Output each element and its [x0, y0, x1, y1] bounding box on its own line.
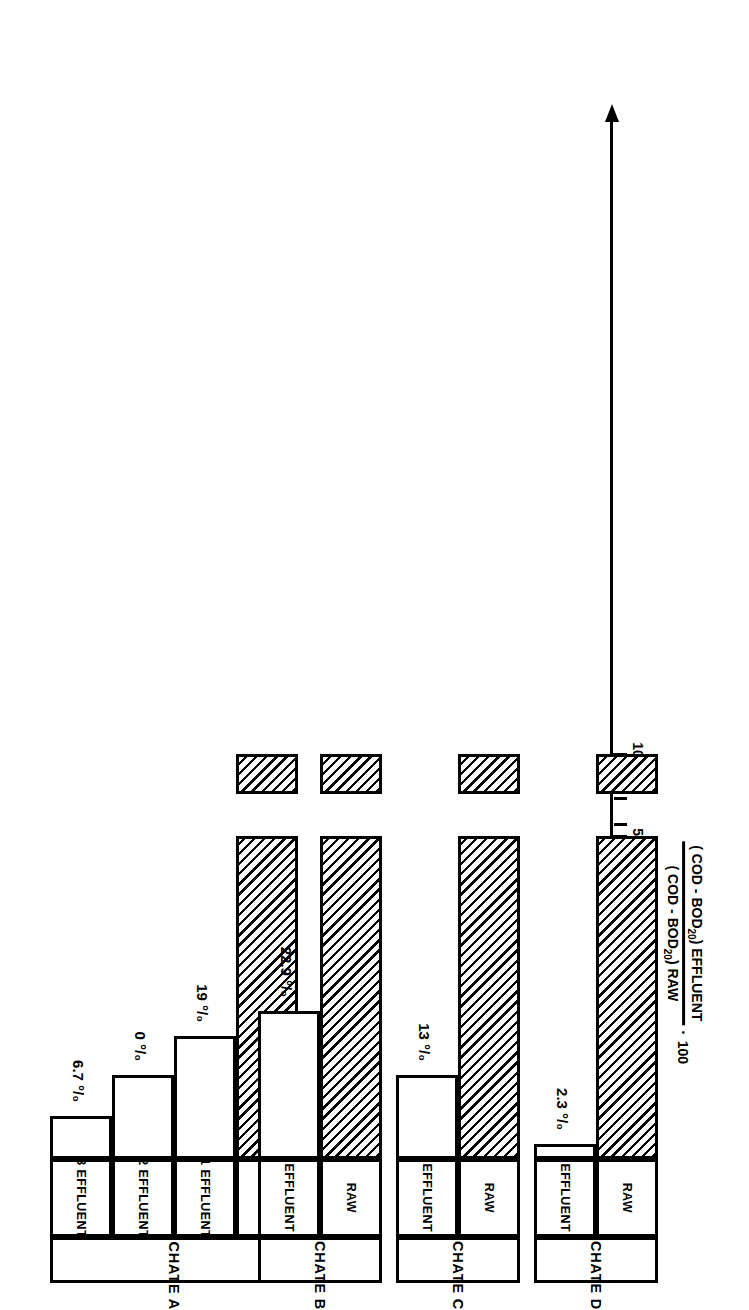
bar-raw: [458, 837, 520, 1160]
series-label-box: 2 EFFLUENT: [112, 1159, 174, 1237]
bar-effluent: [174, 1036, 236, 1159]
series-label-text: EFFLUENT: [282, 1164, 296, 1232]
bar-raw-beyond-break: [596, 755, 658, 795]
bar-value-label: 19 °/₀: [194, 985, 211, 1023]
axis-title-fraction: ( COD - BOD20) EFFLUENT ( COD - BOD20) R…: [662, 841, 705, 1025]
axis-break-dash: [614, 798, 627, 801]
bar-effluent: [534, 1144, 596, 1159]
bar-raw-beyond-break: [236, 755, 298, 795]
series-label-text: EFFLUENT: [558, 1164, 572, 1232]
bar-value-label: 0 °/₀: [132, 1032, 149, 1061]
bar-value-label: 6.7 °/₀: [70, 1060, 87, 1102]
series-label-text: RAW: [620, 1183, 634, 1213]
group-label-box: LEACHATE C: [396, 1237, 520, 1283]
axis-title-numerator: ( COD - BOD20) EFFLUENT: [685, 841, 705, 1025]
bar-effluent: [396, 1075, 458, 1159]
axis-title-multiplier: 100: [676, 1041, 692, 1064]
bar-raw: [320, 837, 382, 1160]
series-label-box: RAW: [458, 1159, 520, 1237]
bar-effluent: [258, 1011, 320, 1159]
series-label-text: 2 EFFLUENT: [136, 1158, 150, 1238]
series-label-text: RAW: [344, 1183, 358, 1213]
series-label-text: EFFLUENT: [420, 1164, 434, 1232]
bar-value-label: 22.9 °/₀: [278, 947, 295, 997]
series-label-text: 3 EFFLUENT: [74, 1158, 88, 1238]
bar-raw: [596, 837, 658, 1160]
bar-effluent: [112, 1075, 174, 1159]
series-label-box: 3 EFFLUENT: [50, 1159, 112, 1237]
group-label-box: LEACHATE D: [534, 1237, 658, 1283]
bar-effluent: [50, 1116, 112, 1159]
multiplication-dot: ·: [675, 1030, 693, 1035]
bar-raw-beyond-break: [458, 755, 520, 795]
bar-value-label: 2.3 °/₀: [554, 1088, 571, 1130]
series-label-box: RAW: [596, 1159, 658, 1237]
bar-raw-beyond-break: [320, 755, 382, 795]
series-label-text: RAW: [482, 1183, 496, 1213]
series-label-box: 1 EFFLUENT: [174, 1159, 236, 1237]
bar-value-label: 13 °/₀: [416, 1023, 433, 1061]
group-label-box: LEACHATE B: [258, 1237, 382, 1283]
series-label-box: EFFLUENT: [258, 1159, 320, 1237]
series-label-box: RAW: [320, 1159, 382, 1237]
series-label-box: EFFLUENT: [534, 1159, 596, 1237]
series-label-text: 1 EFFLUENT: [198, 1158, 212, 1238]
series-label-box: EFFLUENT: [396, 1159, 458, 1237]
axis-title-denominator: ( COD - BOD20) RAW: [662, 862, 682, 1006]
fraction-rule: [682, 841, 685, 1025]
axis-break-dash: [614, 824, 627, 827]
arrow-head-icon: [605, 104, 619, 122]
axis-title: ( COD - BOD20) EFFLUENT ( COD - BOD20) R…: [662, 841, 705, 1064]
